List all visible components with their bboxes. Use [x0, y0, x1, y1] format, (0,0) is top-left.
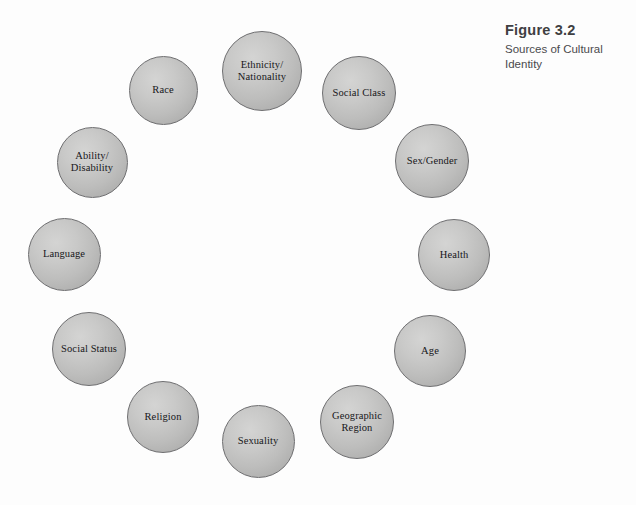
node-circle-social-status: Social Status	[52, 312, 126, 386]
node-label-religion: Religion	[141, 411, 186, 424]
node-circle-sex-gender: Sex/Gender	[395, 124, 469, 198]
node-circle-ethnicity-nationality: Ethnicity/ Nationality	[222, 31, 302, 111]
node-circle-health: Health	[418, 219, 490, 291]
node-label-geographic-region: Geographic Region	[328, 410, 386, 435]
node-circle-age: Age	[394, 315, 466, 387]
node-label-social-status: Social Status	[57, 343, 121, 356]
node-label-language: Language	[39, 248, 89, 261]
node-label-sexuality: Sexuality	[234, 435, 283, 448]
node-label-health: Health	[436, 249, 473, 262]
concept-circle-diagram: Ethnicity/ NationalityRaceSocial ClassSe…	[0, 0, 636, 505]
node-label-ethnicity-nationality: Ethnicity/ Nationality	[234, 59, 290, 84]
node-circle-geographic-region: Geographic Region	[320, 385, 394, 459]
node-circle-race: Race	[129, 56, 198, 125]
node-label-ability-disability: Ability/ Disability	[67, 150, 117, 175]
node-circle-social-class: Social Class	[322, 56, 396, 130]
node-label-social-class: Social Class	[329, 87, 390, 100]
node-label-sex-gender: Sex/Gender	[403, 155, 462, 168]
node-circle-sexuality: Sexuality	[222, 405, 295, 478]
node-circle-ability-disability: Ability/ Disability	[57, 127, 128, 198]
node-circle-language: Language	[28, 218, 101, 291]
node-circle-religion: Religion	[127, 381, 199, 453]
node-label-age: Age	[417, 345, 443, 358]
node-label-race: Race	[148, 84, 177, 97]
